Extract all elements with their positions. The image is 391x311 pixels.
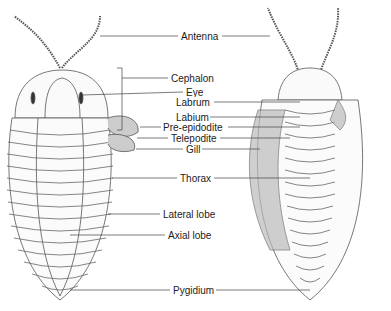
label-labrum: Labrum (175, 97, 211, 108)
label-gill: Gill (185, 144, 201, 155)
dorsal-trilobite (7, 16, 138, 300)
label-pygidium: Pygidium (172, 285, 215, 296)
label-telepodite: Telepodite (170, 133, 218, 144)
label-axial-lobe: Axial lobe (167, 230, 212, 241)
label-pre-epidodite: Pre-epidodite (162, 122, 223, 133)
ventral-trilobite (249, 8, 362, 300)
label-lateral-lobe: Lateral lobe (162, 209, 216, 220)
trilobite-figure (0, 0, 391, 311)
label-cephalon: Cephalon (170, 73, 215, 84)
label-thorax: Thorax (179, 173, 212, 184)
label-antenna: Antenna (180, 31, 219, 42)
